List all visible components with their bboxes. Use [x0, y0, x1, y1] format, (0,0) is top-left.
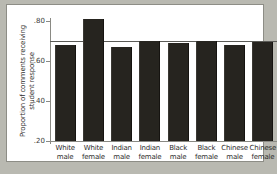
figure-frame: Proportion of comments receiving student…: [6, 4, 264, 162]
category-line1: Indian: [140, 144, 160, 152]
y-axis-title-line2: student response: [28, 19, 37, 143]
category-line1: Indian: [111, 144, 131, 152]
y-axis-title-line1: Proportion of comments receiving: [19, 25, 27, 137]
bar: [83, 19, 104, 141]
chart-page: Proportion of comments receiving student…: [0, 0, 274, 174]
category-line1: Chinese: [221, 144, 248, 152]
bar: [196, 41, 217, 141]
category-line1: Black: [197, 144, 215, 152]
category-line1: Chinese: [250, 144, 274, 152]
category-line1: White: [55, 144, 74, 152]
bar: [224, 45, 245, 141]
bar: [252, 42, 273, 141]
category-line2: female: [247, 153, 274, 162]
y-tick-label: .20: [25, 137, 45, 145]
y-tick-label: .40: [25, 97, 45, 105]
bar: [168, 43, 189, 141]
bars-layer: [51, 21, 274, 141]
bar: [55, 45, 76, 141]
y-tick-mark: [46, 141, 51, 142]
category-line1: White: [84, 144, 103, 152]
x-axis-category-label: Chinesefemale: [247, 144, 274, 161]
y-axis-title: Proportion of comments receiving student…: [17, 21, 39, 141]
y-tick-label: .60: [25, 57, 45, 65]
y-tick-label: .80: [25, 17, 45, 25]
x-axis-labels: WhitemaleWhitefemaleIndianmaleIndianfema…: [51, 144, 274, 166]
category-line1: Black: [169, 144, 187, 152]
x-axis-line: [50, 141, 274, 142]
bar: [139, 41, 160, 141]
bar: [111, 47, 132, 141]
